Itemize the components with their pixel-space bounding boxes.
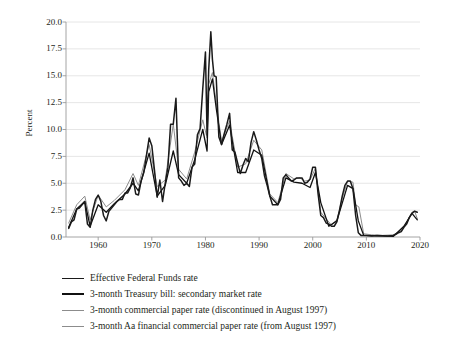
series-line xyxy=(69,73,300,224)
interest-rate-chart-figure: Percent 0.02.55.07.510.012.515.017.520.0… xyxy=(0,0,449,340)
legend-item: Effective Federal Funds rate xyxy=(62,270,442,286)
legend-item: 3-month commercial paper rate (discontin… xyxy=(62,302,442,318)
legend-label: 3-month Treasury bill: secondary market … xyxy=(90,289,262,300)
legend-line-swatch xyxy=(62,278,84,279)
legend-item: 3-month Aa financial commercial paper ra… xyxy=(62,318,442,334)
legend-item: 3-month Treasury bill: secondary market … xyxy=(62,286,442,302)
legend-swatch-line xyxy=(62,310,84,311)
legend-line-swatch xyxy=(62,326,84,327)
legend-label: Effective Federal Funds rate xyxy=(90,273,198,284)
legend-label: 3-month Aa financial commercial paper ra… xyxy=(90,321,336,332)
series-line xyxy=(300,168,417,235)
legend-line-swatch xyxy=(62,310,84,311)
chart-legend: Effective Federal Funds rate3-month Trea… xyxy=(62,270,442,334)
legend-swatch-line xyxy=(62,278,84,279)
legend-swatch-line xyxy=(62,293,84,295)
legend-swatch-line xyxy=(62,326,84,327)
legend-line-swatch xyxy=(62,293,84,295)
legend-label: 3-month commercial paper rate (discontin… xyxy=(90,305,327,316)
series-line xyxy=(69,32,418,236)
